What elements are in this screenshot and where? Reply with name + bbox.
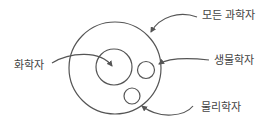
biologists-circle bbox=[138, 62, 155, 79]
all-scientists-arrow bbox=[151, 15, 197, 32]
physicists-circle bbox=[124, 88, 140, 104]
chemists-arrow bbox=[52, 54, 112, 66]
all-scientists-label: 모든 과학자 bbox=[202, 10, 256, 22]
physicists-arrow bbox=[142, 106, 193, 115]
chemists-label: 화학자 bbox=[14, 60, 44, 72]
biologists-label: 생물학자 bbox=[214, 55, 254, 67]
all-scientists-circle bbox=[69, 22, 161, 114]
physicists-label: 물리학자 bbox=[201, 102, 241, 114]
biologists-arrow bbox=[159, 59, 209, 64]
chemists-circle bbox=[96, 49, 132, 85]
